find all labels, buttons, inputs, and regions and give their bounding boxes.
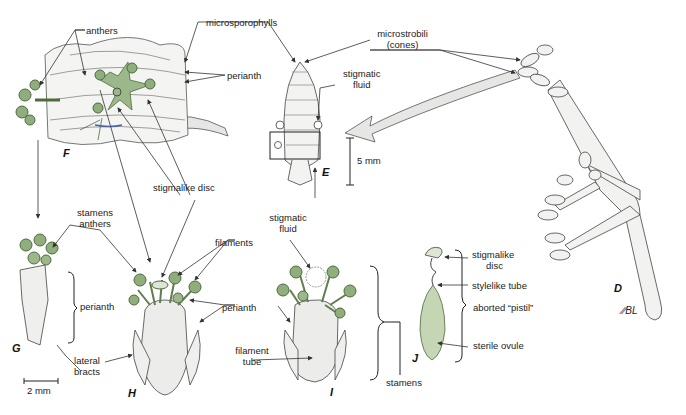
label-sterile-ovule: sterile ovule (473, 340, 524, 351)
artist-signature: ∕∕BL (622, 305, 638, 316)
label-stigmalike-disc-J-line1: stigmalike (472, 249, 514, 260)
label-filament-tube-line2: tube (230, 356, 274, 367)
figure-letter-F: F (63, 147, 70, 159)
label-stigmatic-fluid-E: stigmatic fluid (343, 68, 380, 90)
figure-I-drawing (277, 266, 400, 382)
figure-H-drawing (129, 272, 201, 395)
figure-letter-G: G (12, 342, 21, 354)
figure-letter-H: H (128, 387, 136, 399)
figure-letter-I: I (330, 386, 333, 398)
label-scale-2mm: 2 mm (27, 385, 51, 396)
label-stigmatic-fluid-I: stigmatic fluid (258, 212, 318, 234)
botanical-diagram: anthers microsporophylls perianth micros… (0, 0, 686, 415)
label-anthers: anthers (86, 25, 118, 36)
label-stigmalike-disc-J: stigmalike disc (472, 249, 514, 271)
figure-letter-J: J (412, 352, 418, 364)
label-stamens-G: stamens (70, 207, 120, 218)
label-filaments: filaments (215, 237, 253, 248)
label-aborted-pistil: aborted “pistil” (473, 302, 533, 313)
label-lateral-bracts: lateral bracts (67, 355, 107, 377)
figure-letter-E: E (322, 166, 329, 178)
label-microstrobili-line1: microstrobili (370, 28, 435, 39)
label-filament-tube: filament tube (230, 345, 274, 367)
label-stamens-I: stamens (386, 377, 422, 388)
label-microsporophylls: microsporophylls (206, 17, 277, 28)
label-perianth-G: perianth (80, 301, 114, 312)
figure-letter-D: D (614, 282, 622, 294)
figure-D-drawing (518, 45, 662, 320)
label-anthers-G: anthers (70, 218, 120, 229)
label-stigmatic-fluid-E-line1: stigmatic (343, 68, 380, 79)
figure-J-drawing (420, 247, 466, 362)
label-stigmalike-disc-J-line2: disc (472, 260, 514, 271)
label-stigmatic-fluid-I-line2: fluid (258, 223, 318, 234)
label-lateral-bracts-line2: bracts (67, 366, 107, 377)
figure-E-drawing (270, 62, 354, 185)
label-stamens-anthers-G: stamens anthers (70, 207, 120, 229)
label-microstrobili-line2: (cones) (370, 39, 435, 50)
label-stigmatic-fluid-I-line1: stigmatic (258, 212, 318, 223)
label-stigmatic-fluid-E-line2: fluid (343, 79, 380, 90)
label-filament-tube-line1: filament (230, 345, 274, 356)
figure-F-drawing (16, 38, 188, 145)
label-scale-5mm: 5 mm (357, 155, 381, 166)
label-perianth-H: perianth (222, 302, 256, 313)
label-stylelike-tube: stylelike tube (472, 280, 527, 291)
label-microstrobili: microstrobili (cones) (370, 28, 435, 50)
label-lateral-bracts-line1: lateral (67, 355, 107, 366)
label-perianth-F: perianth (227, 70, 261, 81)
label-stigmalike-disc-F: stigmalike disc (153, 182, 215, 193)
